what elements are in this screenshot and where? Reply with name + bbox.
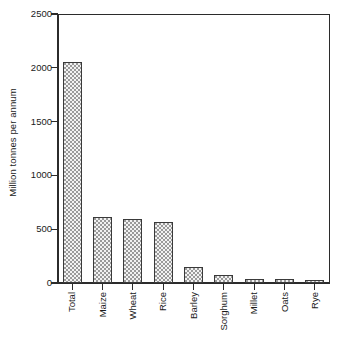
y-axis-tick-label: 500 [18, 224, 52, 234]
x-axis-tick-mark [102, 283, 103, 290]
x-axis-tick-mark [163, 283, 164, 290]
bar-series-group [57, 14, 330, 283]
x-axis-tick-label-text: Oats [280, 292, 290, 312]
y-axis-tick-label: 2500 [18, 9, 52, 19]
y-axis-tick-labels: 05001000150020002500 [18, 0, 52, 300]
x-axis-tick-label-text: Maize [98, 292, 108, 317]
y-axis-tick-mark [51, 282, 58, 283]
bar [154, 222, 173, 283]
x-axis-tick-label: Total [66, 292, 78, 354]
y-axis-label-text: Million tonnes per annum [7, 88, 18, 197]
x-axis-tick-label: Millet [248, 292, 260, 354]
x-axis-tick-mark [284, 283, 285, 290]
y-axis-tick-mark [51, 13, 58, 14]
x-axis-tick-label: Wheat [127, 292, 139, 354]
x-axis-tick-mark [314, 283, 315, 290]
x-axis-tick-label: Rice [157, 292, 169, 354]
y-axis-tick-label: 0 [18, 278, 52, 288]
x-axis-tick-label-text: Wheat [128, 292, 138, 319]
x-axis-tick-label-text: Barley [189, 292, 199, 319]
x-axis-tick-label: Maize [97, 292, 109, 354]
bar [214, 275, 233, 283]
x-axis-tick-label-text: Rice [158, 292, 168, 311]
x-axis-tick-label: Rye [309, 292, 321, 354]
x-axis-tick-mark [193, 283, 194, 290]
y-axis-tick-mark [51, 229, 58, 230]
x-axis-tick-mark [223, 283, 224, 290]
y-axis-tick-mark [51, 121, 58, 122]
y-axis-tick-label: 1500 [18, 117, 52, 127]
bar [184, 267, 203, 283]
y-axis-tick-mark [51, 175, 58, 176]
x-axis-tick-label-text: Rye [310, 292, 320, 309]
bar [63, 62, 82, 283]
x-axis-tick-label: Barley [188, 292, 200, 354]
y-axis-label: Million tonnes per annum [5, 0, 19, 284]
x-axis-tick-mark [254, 283, 255, 290]
bar [93, 217, 112, 283]
bar [123, 219, 142, 283]
bar-chart-figure: Million tonnes per annum 050010001500200… [0, 0, 343, 356]
x-axis-tick-mark [132, 283, 133, 290]
x-axis-tick-label: Sorghum [218, 292, 230, 354]
x-axis-tick-label-text: Sorghum [219, 292, 229, 331]
x-axis-tick-label-text: Total [67, 292, 77, 312]
x-axis-tick-mark [72, 283, 73, 290]
x-axis-tick-label-text: Millet [249, 292, 259, 314]
y-axis-tick-label: 2000 [18, 63, 52, 73]
x-axis-tick-label: Oats [279, 292, 291, 354]
y-axis-tick-label: 1000 [18, 170, 52, 180]
y-axis-tick-mark [51, 67, 58, 68]
